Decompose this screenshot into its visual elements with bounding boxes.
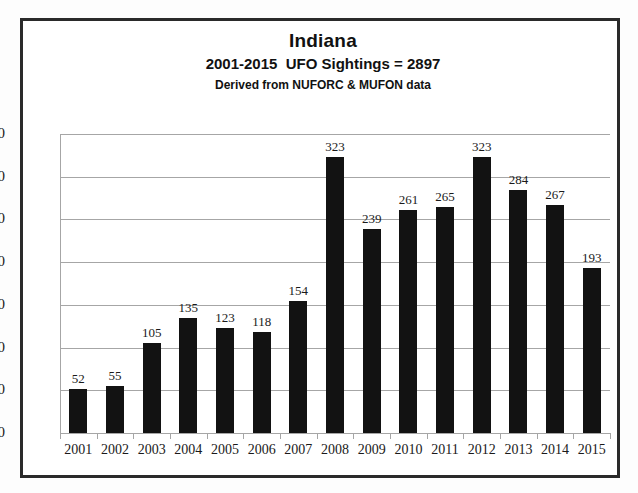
chart-frame: Indiana 2001-2015 UFO Sightings = 2897 D… [20, 18, 620, 478]
chart-title: Indiana [23, 29, 623, 53]
x-tick [500, 433, 501, 439]
bar-value-label: 118 [243, 315, 280, 328]
x-tick-label-2001: 2001 [60, 442, 97, 458]
x-tick [133, 433, 134, 439]
y-tick-250: 250 [0, 210, 5, 227]
x-axis-tick-labels: 2001200220032004200520062007200820092010… [60, 442, 610, 458]
x-tick [610, 433, 611, 439]
bar-value-label: 284 [500, 173, 537, 186]
bar-series: 5255105135123118154323239261265323284267… [60, 134, 610, 433]
bar [143, 343, 161, 433]
bar-slot: 267 [537, 134, 574, 433]
x-tick [207, 433, 208, 439]
x-tick-label-2002: 2002 [97, 442, 134, 458]
x-tick-label-2006: 2006 [243, 442, 280, 458]
x-tick-label-2014: 2014 [537, 442, 574, 458]
bar [436, 207, 454, 433]
x-tick [463, 433, 464, 439]
bar-slot: 265 [427, 134, 464, 433]
x-tick-label-2004: 2004 [170, 442, 207, 458]
chart-source-note: Derived from NUFORC & MUFON data [23, 75, 623, 95]
bar [69, 389, 87, 433]
y-tick-300: 300 [0, 168, 5, 185]
bar-slot: 323 [463, 134, 500, 433]
x-tick-label-2013: 2013 [500, 442, 537, 458]
bar-value-label: 239 [353, 212, 390, 225]
bar-value-label: 105 [133, 326, 170, 339]
bar-value-label: 135 [170, 301, 207, 314]
x-tick-label-2007: 2007 [280, 442, 317, 458]
title-block: Indiana 2001-2015 UFO Sightings = 2897 D… [23, 29, 623, 95]
bar-slot: 284 [500, 134, 537, 433]
x-tick-label-2008: 2008 [317, 442, 354, 458]
bar-value-label: 154 [280, 284, 317, 297]
y-tick-350: 350 [0, 125, 5, 142]
bar-slot: 55 [97, 134, 134, 433]
bar [216, 328, 234, 433]
bar-value-label: 55 [97, 369, 134, 382]
x-tick-label-2005: 2005 [207, 442, 244, 458]
x-tick [170, 433, 171, 439]
y-tick-150: 150 [0, 296, 5, 313]
x-axis-ticks [60, 433, 610, 439]
plot-area: 350300250200150100500 525510513512311815… [60, 134, 610, 433]
bar-slot: 239 [353, 134, 390, 433]
bar-slot: 323 [317, 134, 354, 433]
bar-slot: 123 [207, 134, 244, 433]
bar [289, 301, 307, 433]
bar [399, 210, 417, 433]
y-tick-0: 0 [0, 424, 5, 441]
bar-slot: 135 [170, 134, 207, 433]
x-tick [427, 433, 428, 439]
bar [253, 332, 271, 433]
bar [473, 157, 491, 433]
bar-value-label: 52 [60, 372, 97, 385]
bar [583, 268, 601, 433]
x-tick [280, 433, 281, 439]
y-tick-50: 50 [0, 381, 5, 398]
bar-value-label: 193 [573, 251, 610, 264]
x-tick [353, 433, 354, 439]
bar-value-label: 323 [463, 140, 500, 153]
x-tick [317, 433, 318, 439]
bar-slot: 118 [243, 134, 280, 433]
x-tick-label-2003: 2003 [133, 442, 170, 458]
bar [179, 318, 197, 433]
bar-value-label: 323 [317, 140, 354, 153]
bar-value-label: 265 [427, 190, 464, 203]
x-tick-label-2011: 2011 [427, 442, 464, 458]
x-tick [97, 433, 98, 439]
chart-image: Indiana 2001-2015 UFO Sightings = 2897 D… [0, 0, 638, 493]
x-tick-label-2010: 2010 [390, 442, 427, 458]
bar-slot: 52 [60, 134, 97, 433]
bar [363, 229, 381, 433]
bar [546, 205, 564, 433]
bar-slot: 193 [573, 134, 610, 433]
x-tick [60, 433, 61, 439]
y-tick-200: 200 [0, 253, 5, 270]
bar [106, 386, 124, 433]
bar-value-label: 267 [537, 188, 574, 201]
x-tick [243, 433, 244, 439]
chart-subtitle: 2001-2015 UFO Sightings = 2897 [23, 53, 623, 75]
x-tick-label-2015: 2015 [573, 442, 610, 458]
x-tick [390, 433, 391, 439]
bar-slot: 261 [390, 134, 427, 433]
x-tick [573, 433, 574, 439]
x-tick-label-2012: 2012 [463, 442, 500, 458]
bar [326, 157, 344, 433]
x-tick [537, 433, 538, 439]
bar-slot: 105 [133, 134, 170, 433]
x-tick-label-2009: 2009 [353, 442, 390, 458]
bar-value-label: 123 [207, 311, 244, 324]
bar [509, 190, 527, 433]
y-tick-100: 100 [0, 339, 5, 356]
bar-value-label: 261 [390, 193, 427, 206]
bar-slot: 154 [280, 134, 317, 433]
